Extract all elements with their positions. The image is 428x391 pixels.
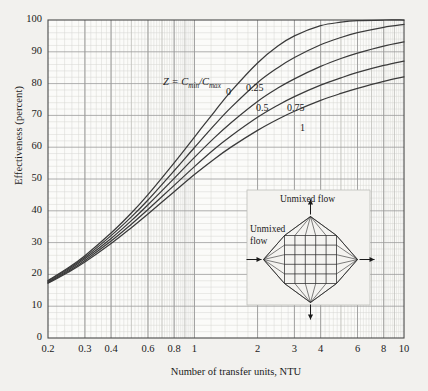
inset-background bbox=[247, 190, 370, 305]
curve-label-z-0_75: 0.75 bbox=[287, 102, 305, 113]
y-tick-label-60: 60 bbox=[8, 140, 42, 151]
x-tick-label-2: 2 bbox=[238, 343, 278, 354]
z-ratio-legend: Z = Cmin/Cmax bbox=[163, 76, 221, 90]
y-tick-label-50: 50 bbox=[8, 172, 42, 183]
curve-label-z-0_25: 0.25 bbox=[246, 82, 264, 93]
x-tick-label-10: 10 bbox=[384, 343, 424, 354]
y-tick-label-80: 80 bbox=[8, 77, 42, 88]
y-tick-label-20: 20 bbox=[8, 267, 42, 278]
y-tick-label-0: 0 bbox=[8, 331, 42, 342]
y-tick-label-40: 40 bbox=[8, 204, 42, 215]
curve-label-z-1: 1 bbox=[300, 122, 305, 133]
y-tick-label-10: 10 bbox=[8, 299, 42, 310]
inset-diagram bbox=[247, 190, 375, 320]
inset-left-label: Unmixedflow bbox=[250, 224, 285, 247]
x-axis-label: Number of transfer units, NTU bbox=[0, 366, 428, 377]
y-tick-label-90: 90 bbox=[8, 45, 42, 56]
x-axis-label-text: Number of transfer units, NTU bbox=[127, 366, 301, 377]
chart-plot-area bbox=[0, 0, 428, 391]
x-tick-label-4: 4 bbox=[301, 343, 341, 354]
x-tick-label-0_4: 0.4 bbox=[91, 343, 131, 354]
y-tick-label-30: 30 bbox=[8, 236, 42, 247]
curve-label-z-0: 0 bbox=[226, 86, 231, 97]
effectiveness-ntu-chart: Effectiveness (percent) Number of transf… bbox=[0, 0, 428, 391]
curve-label-z-0_5: 0.5 bbox=[256, 102, 269, 113]
x-tick-label-0_2: 0.2 bbox=[28, 343, 68, 354]
x-tick-label-1: 1 bbox=[174, 343, 214, 354]
inset-top-label: Unmixed flow bbox=[280, 194, 335, 206]
y-tick-label-100: 100 bbox=[8, 13, 42, 24]
y-tick-label-70: 70 bbox=[8, 108, 42, 119]
